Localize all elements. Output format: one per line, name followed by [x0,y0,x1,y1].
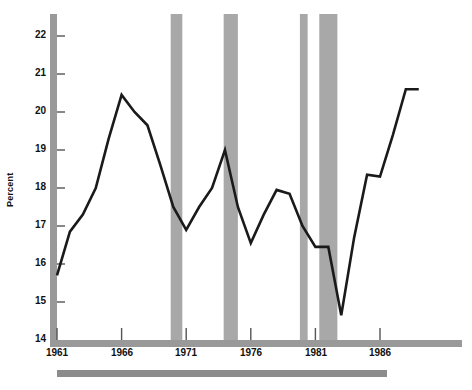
recession-band-4 [319,14,337,340]
footer-bar-group [57,370,387,377]
recession-bands-group [171,14,338,340]
footer-bar [57,370,387,377]
x-axis-line [50,340,462,347]
y-axis-line [50,14,57,347]
recession-band-1 [171,14,183,340]
chart-container: Percent 22 21 20 19 18 17 16 15 14 1961 … [0,0,472,390]
axis-group [50,14,462,347]
chart-plot-area [0,0,472,390]
recession-band-3 [300,14,308,340]
